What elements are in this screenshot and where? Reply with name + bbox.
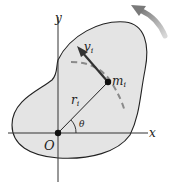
origin-label: O — [44, 138, 55, 153]
rigid-body-shape — [12, 22, 147, 158]
x-axis-label: x — [149, 126, 156, 140]
rigid-body-diagram: y x O vi mi ri θ — [0, 0, 170, 193]
y-axis-label: y — [54, 11, 62, 25]
mass-point — [105, 79, 111, 85]
rotation-direction-arrow-icon — [140, 10, 165, 36]
angle-label: θ — [79, 119, 85, 129]
origin-point — [55, 130, 61, 136]
